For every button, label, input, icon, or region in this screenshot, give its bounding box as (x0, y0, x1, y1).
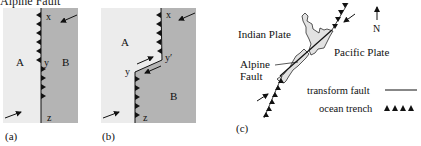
alpine-fault-label-line2: Fault (240, 70, 263, 82)
trench-line-northeast (332, 3, 348, 30)
panel-a: A B x y z (a) (3, 8, 78, 143)
trench-southwest (263, 78, 284, 117)
plate-label-a: A (121, 36, 129, 48)
pacific-motion-arrow (344, 14, 355, 22)
alpine-fault-label-line1: Alpine (240, 58, 270, 70)
legend-label-transform-fault: transform fault (307, 85, 370, 96)
north-label: N (373, 23, 380, 34)
plate-label-b: B (62, 56, 69, 68)
indian-plate-label: Indian Plate (238, 28, 291, 40)
caption-c: (c) (236, 122, 249, 135)
plate-label-b: B (170, 90, 177, 102)
point-y: y (125, 66, 130, 77)
point-z: z (47, 112, 52, 123)
trench-line-southwest (264, 76, 282, 118)
legend-label-ocean-trench: ocean trench (319, 103, 373, 114)
point-z: z (143, 112, 148, 123)
pacific-plate-label: Pacific Plate (334, 46, 389, 58)
figure-canvas: A B x y z (a) A B x y y′ (0, 0, 421, 146)
panel-c: N Indian Plate Pacific Plate Alpine Faul… (236, 3, 417, 135)
point-x: x (166, 9, 171, 20)
plate-label-a: A (16, 56, 24, 68)
legend: transform fault ocean trench (307, 85, 417, 114)
point-y: y (44, 57, 49, 68)
caption-a: (a) (5, 130, 18, 143)
indian-motion-arrow (257, 94, 268, 101)
legend-symbol-triangles (384, 105, 414, 111)
point-x: x (46, 11, 51, 22)
point-y-prime: y′ (165, 52, 172, 63)
caption-b: (b) (102, 130, 115, 143)
panel-b: A B x y y′ z (b) (101, 8, 196, 143)
